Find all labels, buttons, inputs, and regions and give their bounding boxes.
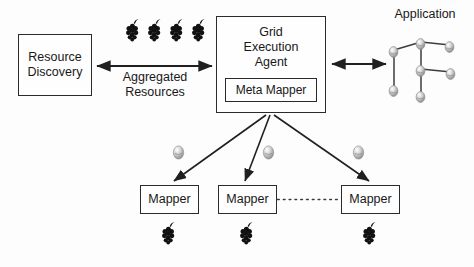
application-node-icon: [444, 39, 455, 51]
diagram-canvas: Resource Discovery Grid Execution Agent …: [0, 0, 474, 267]
box-resource-discovery-label: Resource Discovery: [28, 50, 83, 80]
application-node-icon: [415, 89, 426, 101]
application-node-icon: [415, 63, 426, 75]
box-mapper-3[interactable]: Mapper: [341, 185, 400, 214]
grape-cluster-icon: [168, 18, 185, 44]
box-mapper-1[interactable]: Mapper: [140, 185, 199, 214]
resource-sphere-icon: [172, 145, 185, 160]
box-mapper-2-label: Mapper: [226, 192, 268, 207]
box-mapper-1-label: Mapper: [148, 192, 190, 207]
grape-cluster-icon: [190, 18, 207, 44]
application-node-icon: [445, 66, 456, 78]
box-mapper-3-label: Mapper: [349, 192, 391, 207]
grape-cluster-icon: [361, 221, 378, 247]
application-node-icon: [388, 83, 399, 95]
agent-to-mapper-1-arrow: [174, 115, 266, 181]
grape-cluster-icon: [160, 221, 177, 247]
application-node-icon: [388, 44, 399, 56]
application-node-icon: [415, 36, 426, 48]
box-grid-execution-agent-label: Grid Execution Agent: [244, 25, 299, 69]
grape-cluster-icon: [238, 221, 255, 247]
grape-cluster-icon: [146, 18, 163, 44]
box-mapper-2[interactable]: Mapper: [218, 185, 277, 214]
resource-sphere-icon: [352, 145, 365, 160]
box-meta-mapper-label: Meta Mapper: [236, 83, 307, 97]
grape-cluster-icon: [124, 18, 141, 44]
label-aggregated-resources: Aggregated Resources: [100, 70, 210, 100]
box-resource-discovery[interactable]: Resource Discovery: [18, 34, 92, 96]
label-application: Application: [384, 7, 466, 22]
resource-sphere-icon: [262, 145, 275, 160]
box-meta-mapper[interactable]: Meta Mapper: [225, 78, 317, 102]
